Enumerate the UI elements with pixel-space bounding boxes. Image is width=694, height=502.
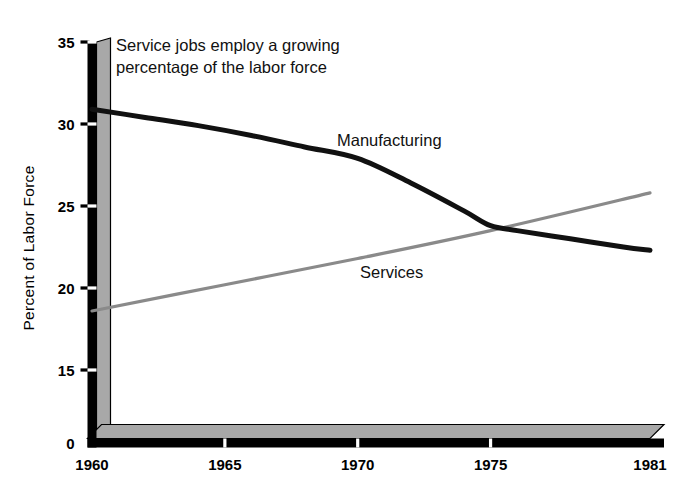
x-tick-label: 1975	[474, 456, 507, 473]
chart-annotation-line-2: percentage of the labor force	[116, 58, 327, 76]
y-tick-label: 0	[66, 435, 74, 452]
series-label-manufacturing: Manufacturing	[337, 131, 442, 149]
x-tick-label: 1960	[75, 456, 108, 473]
y-tick-label: 35	[58, 34, 75, 51]
series-label-services: Services	[360, 263, 423, 281]
chart-annotation-line-1: Service jobs employ a growing	[116, 36, 340, 54]
y-tick-label: 20	[58, 280, 75, 297]
y-tick-label: 15	[58, 362, 75, 379]
y-tick-label: 30	[58, 116, 75, 133]
x-tick-label: 1965	[208, 456, 241, 473]
x-tick-label: 1981	[633, 456, 666, 473]
line-chart-canvas: 01520253035 19601965197019751981 Percent…	[0, 0, 694, 502]
y-tick-label: 25	[58, 198, 75, 215]
x-tick-label: 1970	[341, 456, 374, 473]
chart-figure: 01520253035 19601965197019751981 Percent…	[0, 0, 694, 502]
y-axis-title: Percent of Labor Force	[20, 165, 37, 330]
